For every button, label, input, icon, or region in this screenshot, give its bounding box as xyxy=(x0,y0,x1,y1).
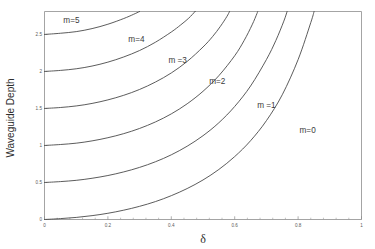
x-tick-label: 0.8 xyxy=(295,223,302,228)
curve-label-m1: m =1 xyxy=(257,101,276,110)
curve-m3 xyxy=(45,12,230,109)
curve-label-m5: m=5 xyxy=(63,16,80,25)
y-tick-label: 2.5 xyxy=(36,32,43,37)
curve-label-m0: m=0 xyxy=(300,126,317,135)
y-tick-label: 1.5 xyxy=(36,106,43,111)
x-tick-label: 0.6 xyxy=(232,223,239,228)
axes-frame xyxy=(45,12,362,220)
x-axis-ticks xyxy=(45,216,362,219)
mode-curve-labels: m=5m=4m =3m=2m =1m=0 xyxy=(63,16,316,135)
y-axis-title: Waveguide Depth xyxy=(5,78,16,157)
waveguide-depth-chart: 00.20.40.60.81 00.511.522.5 m=5m=4m =3m=… xyxy=(0,0,375,249)
x-tick-label: 0.2 xyxy=(105,223,112,228)
mode-curves xyxy=(45,11,315,219)
x-tick-label: 0 xyxy=(43,223,46,228)
curve-label-m2: m=2 xyxy=(209,77,226,86)
y-tick-label: 2 xyxy=(39,69,42,74)
y-tick-label: 0.5 xyxy=(36,180,43,185)
curve-m5 xyxy=(45,11,141,34)
x-axis-title: δ xyxy=(200,232,206,246)
curve-m1 xyxy=(45,12,288,183)
y-axis-ticks xyxy=(45,34,48,219)
plot-frame xyxy=(45,12,362,220)
curve-label-m4: m=4 xyxy=(128,35,145,44)
x-tick-label: 1 xyxy=(360,223,363,228)
y-tick-label: 1 xyxy=(39,143,42,148)
y-axis-tick-labels: 00.511.522.5 xyxy=(36,32,43,222)
chart-figure: 00.20.40.60.81 00.511.522.5 m=5m=4m =3m=… xyxy=(0,0,375,249)
x-axis-tick-labels: 00.20.40.60.81 xyxy=(43,223,363,228)
y-tick-label: 0 xyxy=(39,217,42,222)
curve-label-m3: m =3 xyxy=(168,56,187,65)
curve-m0 xyxy=(45,12,315,220)
x-tick-label: 0.4 xyxy=(168,223,175,228)
